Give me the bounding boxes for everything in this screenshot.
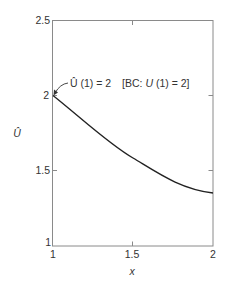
annotation-text: Û (1) = 2 [BC: U (1) = 2] bbox=[70, 77, 190, 89]
chart: 2.5 2 1.5 1 1 1.5 2 Û x Û (1) = 2 [BC: U… bbox=[0, 0, 229, 283]
ytick-label-1.5: 1.5 bbox=[35, 164, 50, 176]
annotation-arrow bbox=[54, 83, 69, 96]
ytick-label-2.5: 2.5 bbox=[35, 14, 50, 26]
ytick-label-1: 1 bbox=[45, 236, 51, 248]
annotation-main: Û (1) = 2 bbox=[70, 77, 111, 89]
solution-curve bbox=[53, 96, 213, 194]
annotation-bc-prefix: [BC: bbox=[122, 77, 145, 89]
plot-frame bbox=[53, 21, 214, 247]
x-axis-label: x bbox=[128, 265, 135, 277]
annotation-bc-suffix: (1) = 2] bbox=[153, 77, 190, 89]
xtick-label-2: 2 bbox=[210, 248, 216, 260]
xtick-label-1: 1 bbox=[50, 248, 56, 260]
y-axis-label: Û bbox=[13, 127, 21, 139]
ytick-label-2: 2 bbox=[43, 89, 49, 101]
y-ticks bbox=[53, 96, 214, 171]
xtick-label-1.5: 1.5 bbox=[125, 248, 140, 260]
